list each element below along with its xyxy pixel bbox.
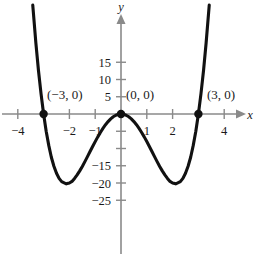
x-axis-label: x xyxy=(246,108,253,122)
x-tick-label: −4 xyxy=(11,124,25,138)
x-tick-label: 2 xyxy=(169,124,175,138)
point-label-root-right: (3, 0) xyxy=(207,87,235,102)
y-tick-label: 5 xyxy=(105,90,111,104)
x-axis-arrowhead xyxy=(236,110,246,119)
point-marker-root-right xyxy=(194,110,202,118)
y-tick-label: 15 xyxy=(99,56,112,70)
y-axis-label: y xyxy=(116,0,124,14)
point-marker-root-origin xyxy=(117,110,125,118)
y-tick-label: −25 xyxy=(91,194,111,208)
x-tick-label: −2 xyxy=(63,124,76,138)
point-label-root-origin: (0, 0) xyxy=(126,87,154,102)
y-tick-label: 10 xyxy=(99,73,112,87)
y-tick-label: −20 xyxy=(91,177,111,191)
y-tick-label: −15 xyxy=(91,159,111,173)
y-axis-arrowhead xyxy=(117,14,126,24)
point-marker-root-left xyxy=(39,110,47,118)
quartic-graph-figure: −4−2−112415105−15−20−25 (−3, 0)(0, 0)(3,… xyxy=(0,0,263,256)
graph-canvas: −4−2−112415105−15−20−25 (−3, 0)(0, 0)(3,… xyxy=(0,0,263,256)
x-tick-label: 4 xyxy=(221,124,228,138)
point-label-root-left: (−3, 0) xyxy=(47,87,83,102)
axis-group xyxy=(2,14,246,254)
